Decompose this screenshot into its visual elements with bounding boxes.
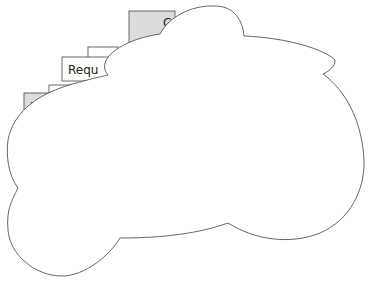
diagram-canvas: G Requ F (0, 0, 371, 281)
box-requ-label: Requ (68, 63, 98, 77)
cloud-shape (7, 6, 364, 276)
